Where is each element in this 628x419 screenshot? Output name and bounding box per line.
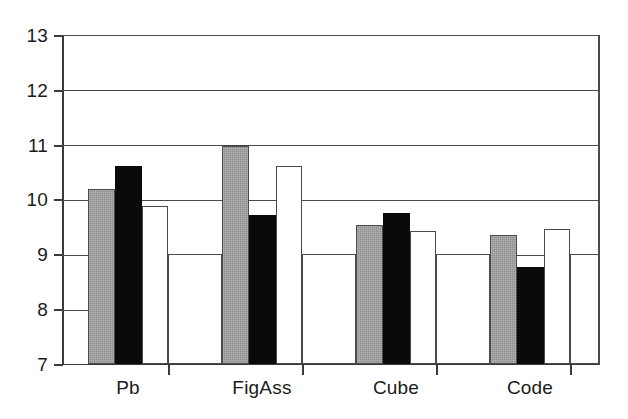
bar-figass-series-3 xyxy=(276,166,302,363)
bar-chart: 13 12 11 10 9 8 7 xyxy=(0,0,628,419)
bar-pb-gap-filler xyxy=(168,254,222,364)
bar-cube-gap-filler xyxy=(436,254,490,364)
bar-code-series-1 xyxy=(490,235,517,364)
x-tick-label-code: Code xyxy=(507,378,553,397)
bar-figass-series-2 xyxy=(249,215,276,363)
y-tick-label-8: 8 xyxy=(4,300,48,319)
bar-pb-series-1 xyxy=(88,189,115,364)
y-tick-label-9: 9 xyxy=(4,245,48,264)
bar-figass-gap-filler xyxy=(302,254,356,364)
bar-cube-series-1 xyxy=(356,225,383,364)
bar-code-series-2 xyxy=(517,267,544,364)
x-tick-mark-2 xyxy=(302,365,304,375)
bar-figass-series-1 xyxy=(222,146,249,364)
y-tick-label-7: 7 xyxy=(4,355,48,374)
bar-pb-series-2 xyxy=(115,166,142,364)
bar-pb-series-3 xyxy=(142,206,168,364)
bars-layer xyxy=(62,35,600,365)
x-tick-label-figass: FigAss xyxy=(232,378,291,397)
bar-cube-series-3 xyxy=(410,231,436,364)
bar-code-series-3 xyxy=(544,229,570,364)
y-tick-label-11: 11 xyxy=(4,136,48,155)
plot-area xyxy=(62,35,600,365)
x-tick-label-pb: Pb xyxy=(116,378,140,397)
x-tick-mark-3 xyxy=(436,365,438,375)
x-axis-label-group: Pb FigAss Cube Code xyxy=(62,378,600,408)
y-tick-label-10: 10 xyxy=(4,190,48,209)
y-tick-label-12: 12 xyxy=(4,81,48,100)
x-tick-label-cube: Cube xyxy=(373,378,419,397)
x-tick-mark-1 xyxy=(168,365,170,375)
bar-code-gap-filler xyxy=(570,254,599,364)
y-tick-label-13: 13 xyxy=(4,26,48,45)
bar-cube-series-2 xyxy=(383,213,410,364)
x-tick-mark-4 xyxy=(570,365,572,375)
y-axis-label-group: 13 12 11 10 9 8 7 xyxy=(0,0,48,419)
